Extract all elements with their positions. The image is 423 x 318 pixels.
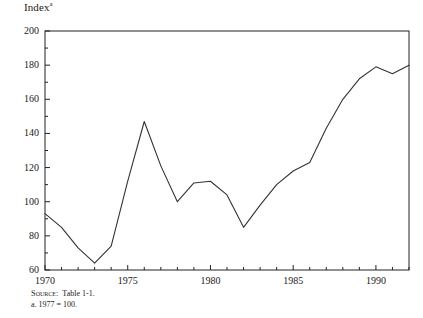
figure-panel: Indexa 608010012014016018020019701975198… [0,0,423,318]
footnote-note: a. 1977 = 100. [31,300,95,311]
x-axis-tick-label: 1975 [108,276,148,286]
source-label: Source: [31,289,58,298]
x-axis-tick-label: 1970 [25,276,65,286]
x-axis-tick-label: 1980 [190,276,230,286]
y-axis-tick-label: 200 [13,26,39,36]
source-note: Source: Table 1-1. [31,289,95,300]
y-axis-tick-label: 80 [13,231,39,241]
x-axis-tick-label: 1985 [273,276,313,286]
plot-area: 6080100120140160180200197019751980198519… [0,0,423,290]
y-axis-tick-label: 160 [13,94,39,104]
chart-svg [0,0,423,290]
figure-notes: Source: Table 1-1. a. 1977 = 100. [31,289,95,310]
y-axis-tick-label: 60 [13,265,39,275]
plot-frame [45,31,409,270]
x-axis-tick-label: 1990 [356,276,396,286]
y-axis-tick-label: 120 [13,163,39,173]
source-value: Table 1-1. [62,289,94,298]
y-axis-tick-label: 140 [13,128,39,138]
y-axis-tick-label: 180 [13,60,39,70]
data-series-line [45,65,409,263]
y-axis-tick-label: 100 [13,197,39,207]
